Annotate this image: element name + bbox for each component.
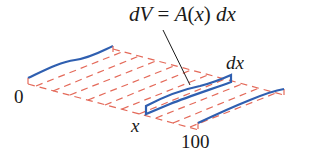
label-start: 0 <box>14 86 24 108</box>
formula-variable: x <box>195 2 204 26</box>
formula-paren-close: ) <box>204 2 211 26</box>
volume-formula: dV = A(x) dx <box>129 2 236 27</box>
label-thickness: dx <box>226 52 244 74</box>
diagram-canvas: dV = A(x) dx 0 x 100 dx <box>0 0 309 159</box>
label-position: x <box>131 115 139 137</box>
formula-dx: dx <box>216 2 236 26</box>
label-end: 100 <box>181 131 210 153</box>
formula-equals: = <box>152 2 174 26</box>
left-end-curve <box>28 46 113 84</box>
leader-line <box>163 30 190 85</box>
formula-paren-open: ( <box>188 2 195 26</box>
formula-dv: dV <box>129 2 152 26</box>
formula-function: A <box>175 2 188 26</box>
right-end-curve <box>198 89 284 123</box>
